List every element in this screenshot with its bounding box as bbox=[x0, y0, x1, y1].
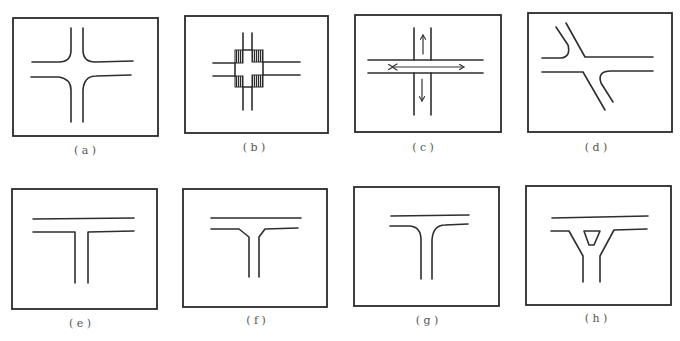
panel-c: ( c ) bbox=[355, 15, 501, 154]
traffic-island bbox=[584, 231, 600, 245]
panel-c-label: ( c ) bbox=[412, 141, 434, 154]
hatched-corner-zones bbox=[235, 50, 263, 87]
panel-a-label: ( a ) bbox=[74, 144, 96, 157]
panel-f-label: ( f ) bbox=[246, 314, 266, 327]
direction-arrows bbox=[392, 35, 464, 101]
panel-a: ( a ) bbox=[13, 18, 158, 157]
panel-e-frame bbox=[12, 189, 157, 309]
panel-f-frame bbox=[183, 189, 327, 307]
panel-d: ( d ) bbox=[528, 13, 672, 154]
panel-f: ( f ) bbox=[183, 189, 327, 327]
panel-h-label: ( h ) bbox=[585, 312, 608, 325]
panel-h-frame bbox=[526, 186, 671, 305]
panel-b-label: ( b ) bbox=[243, 141, 266, 154]
panel-g: ( g ) bbox=[354, 187, 499, 327]
panel-e-label: ( e ) bbox=[69, 317, 91, 330]
panel-d-label: ( d ) bbox=[585, 141, 608, 154]
panel-g-label: ( g ) bbox=[416, 314, 439, 327]
intersection-figure: ( a ) ( b ) bbox=[0, 0, 680, 341]
panel-h: ( h ) bbox=[526, 186, 671, 325]
panel-g-frame bbox=[354, 187, 499, 306]
panel-b: ( b ) bbox=[185, 16, 328, 154]
panel-e: ( e ) bbox=[12, 189, 157, 330]
